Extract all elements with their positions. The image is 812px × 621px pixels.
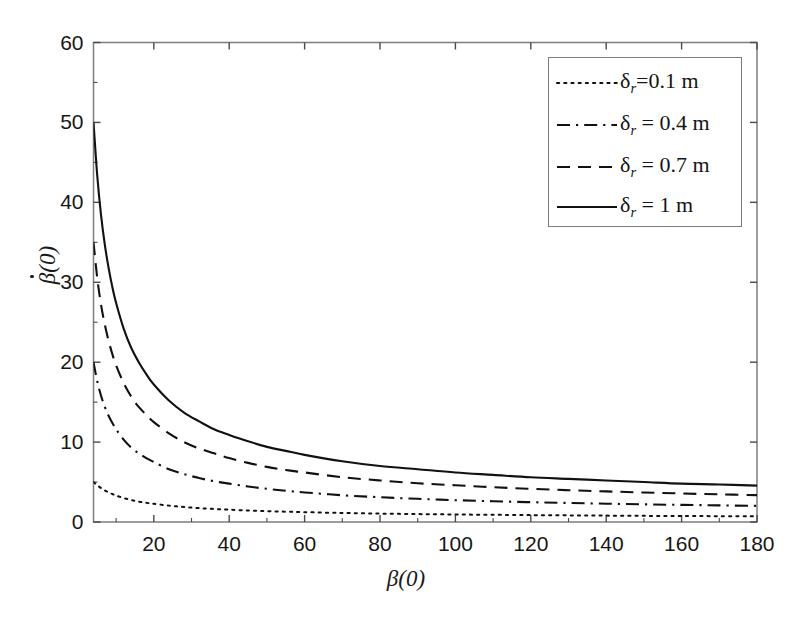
x-tick-label: 60 [293, 532, 316, 556]
y-tick-label: 20 [36, 350, 84, 374]
x-tick-label: 180 [739, 532, 774, 556]
y-tick-label: 10 [36, 430, 84, 454]
legend-line-sample [556, 197, 618, 217]
y-axis-label-beta-dot: β [35, 273, 61, 284]
legend-item-label: δr = 1 m [620, 192, 693, 221]
legend-line-sample [556, 115, 618, 135]
y-tick-label: 60 [36, 31, 84, 55]
x-tick-label: 40 [218, 532, 241, 556]
y-tick-label: 50 [36, 110, 84, 134]
legend: δr=0.1 mδr = 0.4 mδr = 0.7 mδr = 1 m [548, 57, 742, 227]
y-axis-label-container: β(0) [35, 205, 61, 325]
x-tick-label: 100 [438, 532, 473, 556]
legend-item[interactable]: δr = 1 m [549, 186, 743, 228]
x-tick-label: 140 [589, 532, 624, 556]
x-tick-label: 80 [368, 532, 391, 556]
y-axis-label-suffix: (0) [35, 246, 60, 273]
legend-item[interactable]: δr=0.1 m [549, 62, 743, 104]
x-axis-label-container: β(0) [0, 566, 812, 592]
legend-item-label: δr = 0.7 m [620, 152, 710, 181]
y-tick-label: 0 [36, 510, 84, 534]
x-tick-label: 160 [664, 532, 699, 556]
x-tick-label: 20 [142, 532, 165, 556]
legend-item[interactable]: δr = 0.7 m [549, 146, 743, 188]
x-axis-label: β(0) [387, 566, 425, 592]
legend-line-sample [556, 157, 618, 177]
figure-canvas: 204060801001201401601800102030405060 β(0… [0, 0, 812, 621]
legend-line-sample [556, 73, 618, 93]
x-tick-label: 120 [513, 532, 548, 556]
derivative-dot-accent [30, 275, 34, 279]
legend-item-label: δr = 0.4 m [620, 110, 710, 139]
legend-item[interactable]: δr = 0.4 m [549, 104, 743, 146]
legend-item-label: δr=0.1 m [620, 68, 699, 97]
y-axis-label: β(0) [35, 246, 61, 284]
